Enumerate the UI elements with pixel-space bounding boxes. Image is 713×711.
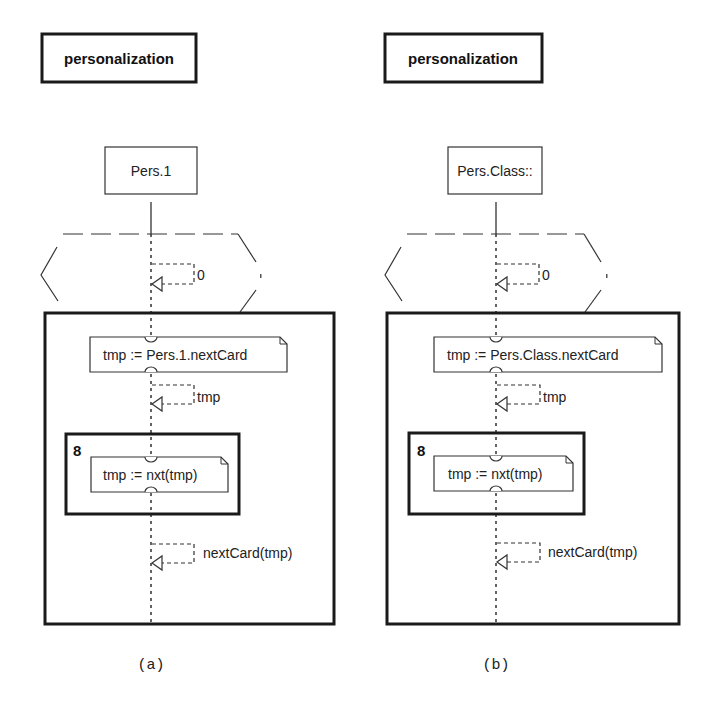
return-last-label: nextCard(tmp)	[548, 544, 637, 560]
guard-hexagon	[41, 234, 262, 312]
guard-return-label: 0	[197, 267, 205, 283]
note-first: tmp := Pers.Class.nextCard	[434, 337, 662, 372]
caption-b: (b)	[482, 657, 509, 674]
return-first-label: tmp	[543, 389, 567, 405]
loop-count: 8	[73, 442, 81, 459]
caption-a: (a)	[137, 657, 164, 674]
loop-count: 8	[417, 442, 425, 459]
panel-b: personalization Pers.Class:: 0 tmp := P	[385, 34, 679, 674]
note-first-text: tmp := Pers.1.nextCard	[103, 347, 247, 363]
return-arrow-last	[152, 544, 194, 570]
panel-a: personalization Pers.1 0	[41, 34, 334, 674]
note-first: tmp := Pers.1.nextCard	[90, 337, 287, 372]
guard-hexagon	[385, 234, 608, 312]
diagram-name-box: personalization	[385, 34, 542, 82]
note-loop: tmp := nxt(tmp)	[91, 457, 228, 492]
note-loop: tmp := nxt(tmp)	[434, 456, 573, 491]
diagram-name-box: personalization	[42, 34, 196, 82]
note-loop-text: tmp := nxt(tmp)	[103, 467, 198, 483]
object-box: Pers.Class::	[448, 147, 542, 194]
figure-canvas: personalization Pers.1 0	[0, 0, 713, 711]
object-label: Pers.Class::	[457, 163, 532, 179]
note-first-text: tmp := Pers.Class.nextCard	[447, 347, 619, 363]
return-arrow-guard	[497, 264, 539, 291]
note-loop-text: tmp := nxt(tmp)	[448, 466, 543, 482]
return-first-label: tmp	[197, 389, 221, 405]
diagram-name: personalization	[408, 50, 518, 67]
return-arrow-last	[497, 543, 540, 569]
object-label: Pers.1	[131, 163, 172, 179]
return-arrow-guard	[152, 264, 194, 291]
guard-return-label: 0	[542, 267, 550, 283]
return-arrow-first	[152, 385, 194, 411]
return-last-label: nextCard(tmp)	[203, 545, 292, 561]
object-box: Pers.1	[105, 147, 197, 194]
diagram-name: personalization	[64, 50, 174, 67]
return-arrow-first	[497, 385, 540, 411]
